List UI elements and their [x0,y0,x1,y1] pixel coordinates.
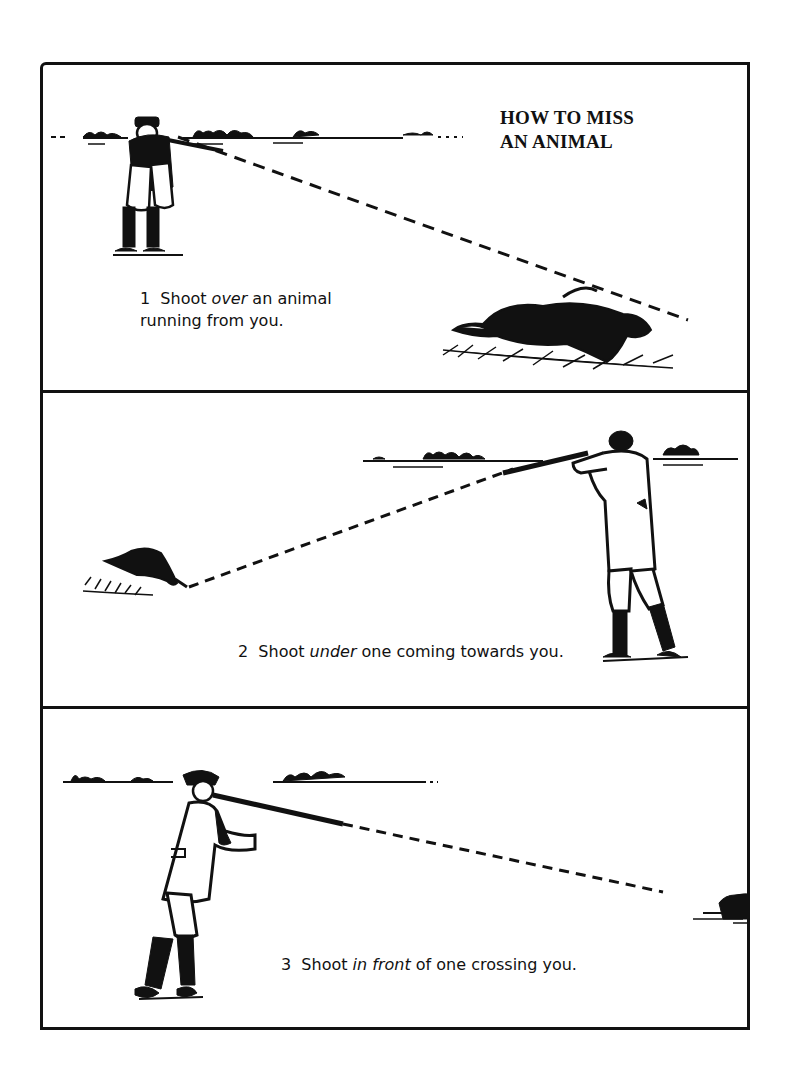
illustration-frame: HOW TO MISS AN ANIMAL 1 Shoot over an an… [40,62,750,1030]
caption-emphasis: in front [353,955,411,974]
panel-1-illustration [43,65,747,390]
aim-line [189,469,513,587]
caption-text: Shoot [258,642,309,661]
caption-number: 2 [238,642,248,661]
caption-number: 3 [281,955,291,974]
title-line-1: HOW TO MISS [500,106,634,130]
caption-text: an animal [247,289,331,308]
caption-1: 1 Shoot over an animal running from you. [140,288,332,332]
title-line-2: AN ANIMAL [500,130,634,154]
caption-emphasis: over [212,289,248,308]
panel-3: 3 Shoot in front of one crossing you. [43,706,747,1027]
caption-2: 2 Shoot under one coming towards you. [238,641,564,663]
caption-emphasis: under [310,642,357,661]
caption-line-2: running from you. [140,310,332,332]
panel-3-illustration [43,709,747,1027]
panel-2: 2 Shoot under one coming towards you. [43,390,747,706]
panel-1: HOW TO MISS AN ANIMAL 1 Shoot over an an… [43,65,747,390]
hunter-icon [135,770,255,999]
rabbit-icon [443,288,673,369]
horizon-icon [51,130,463,144]
caption-3: 3 Shoot in front of one crossing you. [281,954,577,976]
caption-text: of one crossing you. [411,955,577,974]
caption-number: 1 [140,289,150,308]
caption-text: one coming towards you. [356,642,563,661]
caption-text: Shoot [301,955,352,974]
horizon-icon [63,771,438,782]
rabbit-icon [693,894,747,923]
page-title: HOW TO MISS AN ANIMAL [500,106,634,154]
aim-line [343,824,663,892]
caption-text: Shoot [160,289,211,308]
rabbit-icon [83,548,187,595]
